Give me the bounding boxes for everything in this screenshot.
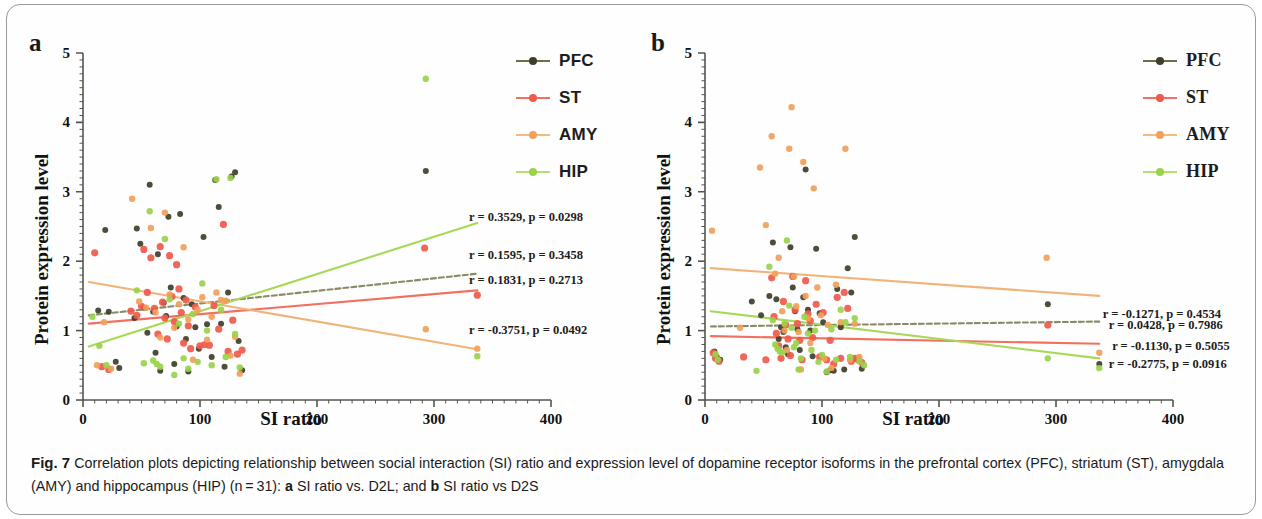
- caption-marker-b: b: [430, 478, 439, 494]
- figure-card: a Protein expression level SI ratio 0123…: [6, 4, 1256, 515]
- panel-a-legend: PFC ST AMY HIP: [516, 42, 598, 190]
- legend-item-hip[interactable]: HIP: [516, 153, 598, 190]
- legend-marker-st-icon: [516, 91, 550, 105]
- panel-a-annotation-pfc: r = 0.1595, p = 0.3458: [469, 248, 583, 263]
- svg-text:4: 4: [685, 114, 693, 130]
- legend-marker-pfc-icon: [1143, 54, 1177, 68]
- svg-text:2: 2: [685, 253, 693, 269]
- caption-text-1: Correlation plots depicting relationship…: [31, 455, 1224, 494]
- svg-text:1: 1: [63, 323, 71, 339]
- legend-marker-st-icon: [1143, 91, 1177, 105]
- panel-b: b Protein expression level SI ratio 0123…: [633, 15, 1253, 435]
- caption-marker-a: a: [285, 478, 293, 494]
- legend-marker-amy-icon: [1143, 128, 1177, 142]
- svg-text:5: 5: [63, 45, 71, 61]
- panel-a-annotation-st: r = 0.1831, p = 0.2713: [469, 273, 583, 288]
- legend-item-st[interactable]: ST: [516, 79, 598, 116]
- legend-label-st: ST: [559, 88, 581, 108]
- legend-item-amy[interactable]: AMY: [1143, 116, 1230, 153]
- panel-a-annotation-hip: r = 0.3529, p = 0.0298: [469, 210, 583, 225]
- svg-text:200: 200: [306, 411, 329, 427]
- legend-marker-pfc-icon: [516, 54, 550, 68]
- legend-item-pfc[interactable]: PFC: [516, 42, 598, 79]
- caption-figure-label: Fig. 7: [31, 454, 70, 471]
- legend-label-pfc: PFC: [1186, 50, 1222, 71]
- svg-text:300: 300: [1045, 411, 1068, 427]
- panel-b-legend: PFC ST AMY HIP: [1143, 42, 1230, 190]
- svg-text:3: 3: [63, 184, 71, 200]
- panel-b-annotation-hip: r = -0.2775, p = 0.0916: [1109, 357, 1227, 372]
- legend-marker-hip-icon: [1143, 165, 1177, 179]
- legend-label-hip: HIP: [1186, 161, 1219, 182]
- svg-text:5: 5: [685, 45, 693, 61]
- legend-marker-hip-icon: [516, 165, 550, 179]
- legend-item-hip[interactable]: HIP: [1143, 153, 1230, 190]
- svg-text:4: 4: [63, 114, 71, 130]
- svg-text:100: 100: [189, 411, 212, 427]
- legend-label-amy: AMY: [559, 125, 598, 145]
- legend-label-pfc: PFC: [559, 51, 594, 71]
- panel-b-annotation-st: r = -0.1130, p = 0.5055: [1112, 339, 1230, 354]
- legend-label-hip: HIP: [559, 162, 588, 182]
- svg-text:0: 0: [685, 392, 693, 408]
- legend-item-pfc[interactable]: PFC: [1143, 42, 1230, 79]
- svg-text:300: 300: [423, 411, 446, 427]
- legend-label-st: ST: [1186, 87, 1209, 108]
- panel-a: a Protein expression level SI ratio 0123…: [11, 15, 631, 435]
- svg-text:2: 2: [63, 253, 71, 269]
- caption-text-3: SI ratio vs D2S: [439, 478, 538, 494]
- svg-text:1: 1: [685, 323, 693, 339]
- svg-text:400: 400: [1162, 411, 1185, 427]
- svg-text:100: 100: [811, 411, 834, 427]
- svg-text:0: 0: [701, 411, 709, 427]
- legend-item-amy[interactable]: AMY: [516, 116, 598, 153]
- panel-a-annotation-amy: r = -0.3751, p = 0.0492: [469, 323, 587, 338]
- caption-text-2: SI ratio vs. D2L; and: [293, 478, 430, 494]
- svg-text:400: 400: [540, 411, 563, 427]
- legend-item-st[interactable]: ST: [1143, 79, 1230, 116]
- svg-text:3: 3: [685, 184, 693, 200]
- panel-b-annotation-pfc: r = 0.0428, p = 0.7986: [1109, 318, 1223, 333]
- legend-marker-amy-icon: [516, 128, 550, 142]
- svg-text:200: 200: [928, 411, 951, 427]
- figure-caption: Fig. 7 Correlation plots depicting relat…: [31, 451, 1241, 498]
- legend-label-amy: AMY: [1186, 124, 1230, 145]
- svg-text:0: 0: [79, 411, 87, 427]
- svg-text:0: 0: [63, 392, 71, 408]
